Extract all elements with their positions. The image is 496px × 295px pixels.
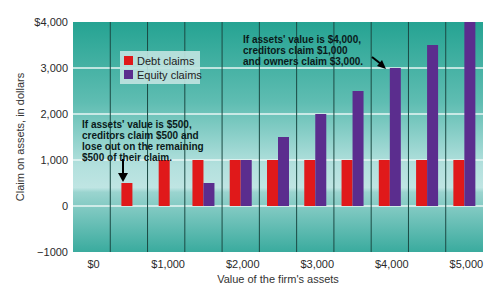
x-tick-label: $2,000 xyxy=(226,258,260,270)
legend-label-equity: Equity claims xyxy=(137,69,202,81)
y-tick-label: 2,000 xyxy=(40,108,68,120)
svg-text:If assets' value is $4,000,: If assets' value is $4,000, xyxy=(243,34,361,45)
x-axis-title: Value of the firm's assets xyxy=(217,273,339,285)
x-tick-label: $3,000 xyxy=(300,258,334,270)
svg-text:If assets' value is $500,: If assets' value is $500, xyxy=(82,119,192,130)
legend-swatch-equity xyxy=(124,70,133,79)
legend: Debt claims Equity claims xyxy=(120,51,202,84)
bar-chart: $4,0003,0002,0001,0000−1000 $0$1,000$2,0… xyxy=(0,0,496,295)
legend-swatch-debt xyxy=(124,56,133,65)
y-tick-label: 3,000 xyxy=(40,62,68,74)
bar-equity xyxy=(353,91,364,206)
y-tick-label: −1000 xyxy=(37,246,68,258)
x-tick-label: $0 xyxy=(88,258,100,270)
x-axis-ticks: $0$1,000$2,000$3,000$4,000$5,000 xyxy=(88,258,484,270)
svg-text:and owners claim $3,000.: and owners claim $3,000. xyxy=(243,56,363,67)
bar-debt xyxy=(192,160,203,206)
y-tick-label: 1,000 xyxy=(40,154,68,166)
bar-debt xyxy=(304,160,315,206)
svg-text:creditors claim $500 and: creditors claim $500 and xyxy=(82,130,199,141)
bar-equity xyxy=(427,45,438,206)
y-tick-label: 0 xyxy=(62,200,68,212)
bar-debt xyxy=(230,160,241,206)
legend-label-debt: Debt claims xyxy=(137,55,195,67)
y-axis-title: Claim on assets, in dollars xyxy=(14,72,26,201)
bar-debt xyxy=(342,160,353,206)
bar-debt xyxy=(159,160,170,206)
svg-text:lose out on the remaining: lose out on the remaining xyxy=(82,141,204,152)
bar-equity xyxy=(278,137,289,206)
bar-debt xyxy=(416,160,427,206)
bar-equity xyxy=(241,160,252,206)
bar-debt xyxy=(453,160,464,206)
bar-equity xyxy=(315,114,326,206)
x-tick-label: $4,000 xyxy=(375,258,409,270)
y-tick-label: $4,000 xyxy=(34,16,68,28)
y-axis-ticks: $4,0003,0002,0001,0000−1000 xyxy=(34,16,68,258)
x-tick-label: $5,000 xyxy=(450,258,484,270)
bar-debt xyxy=(267,160,278,206)
x-tick-label: $1,000 xyxy=(151,258,185,270)
bar-debt xyxy=(379,160,390,206)
bar-equity xyxy=(464,22,475,206)
svg-text:creditors claim $1,000: creditors claim $1,000 xyxy=(243,45,348,56)
svg-text:$500 of their claim.: $500 of their claim. xyxy=(82,152,172,163)
bar-equity xyxy=(390,68,401,206)
bar-debt xyxy=(121,183,132,206)
bar-equity xyxy=(203,183,214,206)
